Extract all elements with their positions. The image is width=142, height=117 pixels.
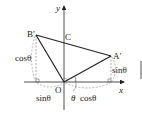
y-axis-label: y xyxy=(55,3,60,13)
rotation-diagram: y x O B′ C A′ cosθ sinθ sinθ θ cosθ xyxy=(0,0,142,117)
brace-cos-left xyxy=(32,36,36,80)
point-label-bprime: B′ xyxy=(27,29,35,39)
label-sin-right: sinθ xyxy=(112,65,127,75)
diagram-canvas: y x O B′ C A′ cosθ sinθ sinθ θ cosθ xyxy=(0,0,142,117)
label-sin-bottom: sinθ xyxy=(36,93,51,103)
brace-cos-bottom xyxy=(65,83,110,88)
x-axis-label: x xyxy=(118,85,123,95)
label-theta: θ xyxy=(71,93,76,103)
right-angle-aprime xyxy=(108,79,111,82)
label-cos-left: cosθ xyxy=(15,53,31,63)
label-cos-bottom: cosθ xyxy=(80,93,96,103)
point-label-aprime: A′ xyxy=(113,51,121,61)
point-label-c: C xyxy=(65,32,71,42)
right-angle-bprime xyxy=(36,79,39,82)
origin-label: O xyxy=(55,85,62,95)
segment-o-aprime xyxy=(64,56,111,82)
